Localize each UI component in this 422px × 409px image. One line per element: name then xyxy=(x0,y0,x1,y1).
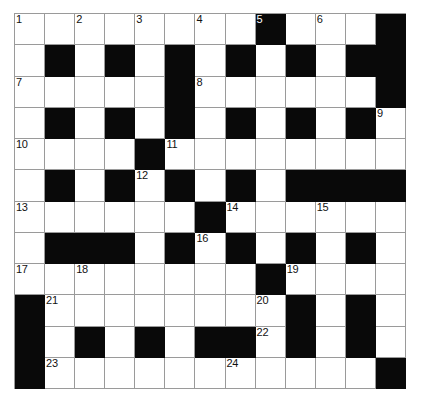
crossword-open-cell[interactable] xyxy=(75,295,105,326)
crossword-open-cell[interactable] xyxy=(75,202,105,233)
crossword-open-cell[interactable] xyxy=(316,327,346,358)
crossword-open-cell[interactable] xyxy=(105,14,135,45)
crossword-open-cell[interactable] xyxy=(105,295,135,326)
crossword-open-cell[interactable] xyxy=(316,139,346,170)
crossword-open-cell[interactable] xyxy=(45,202,75,233)
crossword-open-cell[interactable] xyxy=(195,358,225,389)
crossword-open-cell[interactable] xyxy=(105,264,135,295)
crossword-open-cell[interactable] xyxy=(195,295,225,326)
crossword-open-cell[interactable] xyxy=(195,139,225,170)
crossword-open-cell[interactable] xyxy=(135,77,165,108)
crossword-open-cell[interactable] xyxy=(376,327,406,358)
crossword-open-cell[interactable] xyxy=(346,264,376,295)
crossword-open-cell[interactable] xyxy=(316,233,346,264)
crossword-open-cell[interactable]: 20 xyxy=(256,295,286,326)
crossword-open-cell[interactable]: 2 xyxy=(75,14,105,45)
crossword-open-cell[interactable] xyxy=(316,77,346,108)
crossword-open-cell[interactable] xyxy=(256,45,286,76)
crossword-open-cell[interactable]: 7 xyxy=(15,77,45,108)
crossword-open-cell[interactable]: 3 xyxy=(135,14,165,45)
crossword-open-cell[interactable] xyxy=(256,358,286,389)
crossword-open-cell[interactable] xyxy=(105,327,135,358)
crossword-open-cell[interactable] xyxy=(316,108,346,139)
crossword-open-cell[interactable] xyxy=(376,202,406,233)
crossword-open-cell[interactable] xyxy=(316,264,346,295)
crossword-open-cell[interactable]: 10 xyxy=(15,139,45,170)
crossword-open-cell[interactable] xyxy=(15,233,45,264)
crossword-open-cell[interactable] xyxy=(165,327,195,358)
crossword-open-cell[interactable] xyxy=(376,139,406,170)
crossword-open-cell[interactable] xyxy=(346,358,376,389)
crossword-open-cell[interactable]: 8 xyxy=(195,77,225,108)
crossword-open-cell[interactable] xyxy=(105,358,135,389)
crossword-open-cell[interactable] xyxy=(75,170,105,201)
crossword-open-cell[interactable] xyxy=(346,202,376,233)
crossword-open-cell[interactable] xyxy=(45,14,75,45)
crossword-open-cell[interactable]: 16 xyxy=(195,233,225,264)
crossword-open-cell[interactable]: 12 xyxy=(135,170,165,201)
crossword-open-cell[interactable]: 18 xyxy=(75,264,105,295)
crossword-open-cell[interactable] xyxy=(105,202,135,233)
crossword-open-cell[interactable]: 15 xyxy=(316,202,346,233)
crossword-open-cell[interactable] xyxy=(256,202,286,233)
crossword-open-cell[interactable] xyxy=(75,139,105,170)
crossword-open-cell[interactable]: 1 xyxy=(15,14,45,45)
crossword-open-cell[interactable]: 24 xyxy=(226,358,256,389)
crossword-open-cell[interactable] xyxy=(256,139,286,170)
crossword-open-cell[interactable] xyxy=(195,170,225,201)
crossword-open-cell[interactable] xyxy=(15,170,45,201)
crossword-open-cell[interactable] xyxy=(286,358,316,389)
crossword-open-cell[interactable] xyxy=(226,77,256,108)
crossword-open-cell[interactable]: 4 xyxy=(195,14,225,45)
crossword-open-cell[interactable] xyxy=(135,45,165,76)
crossword-open-cell[interactable] xyxy=(135,358,165,389)
crossword-open-cell[interactable] xyxy=(165,358,195,389)
crossword-open-cell[interactable]: 17 xyxy=(15,264,45,295)
crossword-open-cell[interactable] xyxy=(376,233,406,264)
crossword-open-cell[interactable]: 11 xyxy=(165,139,195,170)
crossword-open-cell[interactable] xyxy=(376,295,406,326)
crossword-open-cell[interactable] xyxy=(346,139,376,170)
crossword-open-cell[interactable] xyxy=(75,358,105,389)
crossword-open-cell[interactable] xyxy=(226,14,256,45)
crossword-open-cell[interactable]: 23 xyxy=(45,358,75,389)
crossword-open-cell[interactable] xyxy=(135,264,165,295)
crossword-open-cell[interactable] xyxy=(256,77,286,108)
crossword-open-cell[interactable] xyxy=(256,108,286,139)
crossword-open-cell[interactable] xyxy=(195,264,225,295)
crossword-open-cell[interactable] xyxy=(135,295,165,326)
crossword-open-cell[interactable] xyxy=(226,139,256,170)
crossword-open-cell[interactable] xyxy=(45,77,75,108)
crossword-open-cell[interactable] xyxy=(256,233,286,264)
crossword-open-cell[interactable]: 6 xyxy=(316,14,346,45)
crossword-open-cell[interactable] xyxy=(45,139,75,170)
crossword-open-cell[interactable] xyxy=(105,139,135,170)
crossword-open-cell[interactable] xyxy=(286,139,316,170)
crossword-open-cell[interactable] xyxy=(165,14,195,45)
crossword-open-cell[interactable] xyxy=(135,233,165,264)
crossword-open-cell[interactable] xyxy=(165,295,195,326)
crossword-open-cell[interactable] xyxy=(15,45,45,76)
crossword-open-cell[interactable] xyxy=(195,45,225,76)
crossword-open-cell[interactable] xyxy=(45,264,75,295)
crossword-open-cell[interactable]: 19 xyxy=(286,264,316,295)
crossword-open-cell[interactable] xyxy=(226,295,256,326)
crossword-open-cell[interactable] xyxy=(165,202,195,233)
crossword-open-cell[interactable]: 9 xyxy=(376,108,406,139)
crossword-open-cell[interactable] xyxy=(75,108,105,139)
crossword-open-cell[interactable] xyxy=(195,108,225,139)
crossword-open-cell[interactable] xyxy=(286,77,316,108)
crossword-open-cell[interactable] xyxy=(286,14,316,45)
crossword-open-cell[interactable] xyxy=(256,170,286,201)
crossword-open-cell[interactable]: 21 xyxy=(45,295,75,326)
crossword-open-cell[interactable] xyxy=(105,77,135,108)
crossword-open-cell[interactable]: 13 xyxy=(15,202,45,233)
crossword-open-cell[interactable] xyxy=(376,264,406,295)
crossword-open-cell[interactable] xyxy=(226,264,256,295)
crossword-open-cell[interactable] xyxy=(15,108,45,139)
crossword-open-cell[interactable] xyxy=(75,77,105,108)
crossword-open-cell[interactable]: 22 xyxy=(256,327,286,358)
crossword-open-cell[interactable] xyxy=(75,45,105,76)
crossword-open-cell[interactable] xyxy=(286,202,316,233)
crossword-open-cell[interactable] xyxy=(165,264,195,295)
